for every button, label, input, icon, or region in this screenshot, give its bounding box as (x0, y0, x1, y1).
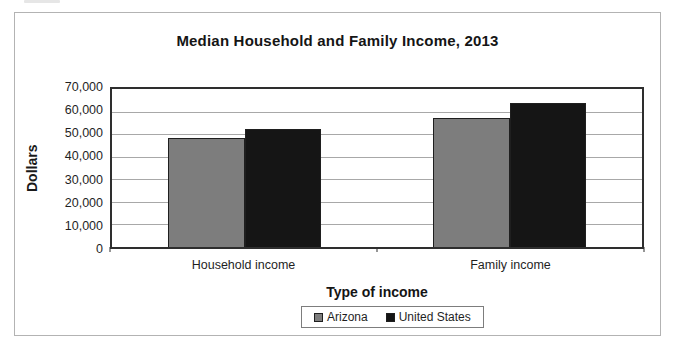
chart-title: Median Household and Family Income, 2013 (15, 32, 660, 49)
plot-area (110, 87, 644, 249)
x-axis-title: Type of income (110, 284, 644, 300)
x-tick-mark (377, 247, 378, 252)
x-category-labels: Household incomeFamily income (110, 258, 644, 272)
x-category-label: Family income (377, 258, 644, 272)
y-tick-label: 50,000 (15, 126, 103, 140)
legend: ArizonaUnited States (301, 306, 484, 328)
y-axis-tick-labels: 70,00060,00050,00040,00030,00020,00010,0… (15, 87, 103, 249)
y-tick-label: 10,000 (15, 219, 103, 233)
y-tick-label: 70,000 (15, 80, 103, 94)
x-tick-mark (110, 247, 111, 252)
bar-arizona-family-income (433, 118, 510, 247)
legend-entry-united-states: United States (386, 310, 471, 324)
legend-label: Arizona (327, 310, 368, 324)
bar-united-states-household-income (245, 129, 322, 248)
y-tick-label: 40,000 (15, 149, 103, 163)
y-tick-label: 30,000 (15, 173, 103, 187)
chart-frame: Median Household and Family Income, 2013… (14, 12, 661, 336)
page: Median Household and Family Income, 2013… (0, 0, 675, 345)
legend-marker-icon (314, 313, 323, 322)
x-tick-mark (644, 247, 645, 252)
bar-group-family-income (377, 89, 642, 247)
bar-arizona-household-income (168, 138, 245, 247)
y-tick-label: 20,000 (15, 196, 103, 210)
y-tick-label: 60,000 (15, 103, 103, 117)
bar-group-household-income (112, 89, 377, 247)
bars-container (112, 89, 642, 247)
bar-united-states-family-income (510, 103, 587, 247)
legend-label: United States (399, 310, 471, 324)
x-axis-tick-marks (110, 247, 644, 252)
legend-entry-arizona: Arizona (314, 310, 368, 324)
y-tick-label: 0 (15, 242, 103, 256)
x-category-label: Household income (110, 258, 377, 272)
legend-marker-icon (386, 313, 395, 322)
scan-artifact (24, 0, 60, 3)
